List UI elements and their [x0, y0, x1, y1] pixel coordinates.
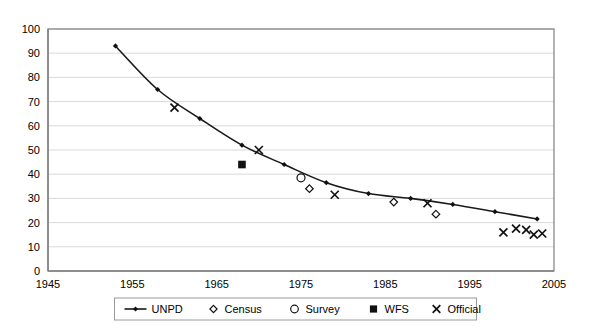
- data-point-marker: [408, 196, 413, 201]
- chart-container: 0102030405060708090100 19451955196519751…: [0, 0, 591, 331]
- y-tick-label: 70: [28, 96, 40, 108]
- data-point-marker: [370, 305, 377, 312]
- legend-item-label: UNPD: [152, 303, 183, 315]
- legend-item-label: Census: [225, 303, 263, 315]
- y-tick-label: 90: [28, 47, 40, 59]
- y-axis-tick-labels: 0102030405060708090100: [22, 23, 40, 277]
- y-tick-label: 40: [28, 168, 40, 180]
- x-axis-tick-labels: 1945195519651975198519952005: [36, 278, 566, 290]
- data-point-marker: [390, 198, 398, 206]
- y-tick-label: 0: [34, 265, 40, 277]
- legend-item-label: Survey: [306, 303, 341, 315]
- x-tick-label: 1975: [289, 278, 313, 290]
- y-tick-label: 10: [28, 241, 40, 253]
- data-point-marker: [238, 161, 246, 169]
- x-tick-label: 2005: [542, 278, 566, 290]
- y-tick-label: 60: [28, 120, 40, 132]
- series-unpd: [113, 43, 540, 221]
- x-tick-label: 1985: [373, 278, 397, 290]
- data-point-marker: [366, 191, 371, 196]
- data-point-marker: [306, 185, 314, 193]
- series-census: [306, 185, 440, 218]
- x-tick-label: 1965: [204, 278, 228, 290]
- y-tick-label: 30: [28, 192, 40, 204]
- gridlines: [48, 29, 554, 247]
- legend-item-label: Official: [448, 303, 481, 315]
- series-official: [171, 104, 547, 239]
- data-point-marker: [492, 209, 497, 214]
- data-point-marker: [535, 216, 540, 221]
- series-line-path: [115, 46, 537, 219]
- legend-item-label: WFS: [385, 303, 409, 315]
- y-tick-label: 50: [28, 144, 40, 156]
- data-point-marker: [291, 305, 299, 313]
- y-tick-label: 20: [28, 217, 40, 229]
- series-wfs: [238, 161, 246, 169]
- x-tick-label: 1945: [36, 278, 60, 290]
- x-tick-label: 1995: [457, 278, 481, 290]
- data-point-marker: [324, 180, 329, 185]
- line-chart: 0102030405060708090100 19451955196519751…: [0, 0, 591, 331]
- data-point-marker: [432, 210, 440, 218]
- x-tick-label: 1955: [120, 278, 144, 290]
- y-tick-label: 80: [28, 71, 40, 83]
- data-point-marker: [450, 202, 455, 207]
- data-point-marker: [297, 174, 305, 182]
- chart-legend: UNPDCensusSurveyWFSOfficial: [115, 298, 481, 320]
- data-point-marker: [282, 162, 287, 167]
- series-survey: [297, 174, 305, 182]
- y-tick-label: 100: [22, 23, 40, 35]
